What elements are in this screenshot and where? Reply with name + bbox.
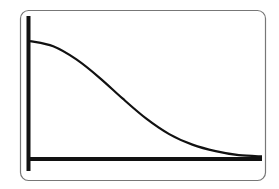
chart — [0, 0, 279, 189]
chart-frame — [21, 11, 266, 181]
